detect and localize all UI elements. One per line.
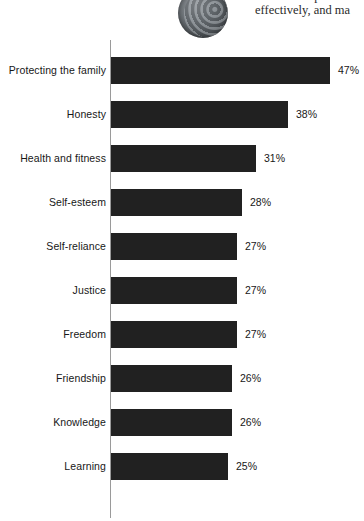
bar-row: Honesty38%: [0, 101, 355, 128]
bar-value-label: 27%: [245, 321, 266, 348]
bar-value-label: 26%: [240, 409, 261, 436]
bar-category-label: Freedom: [63, 321, 106, 348]
bar-value-label: 26%: [240, 365, 261, 392]
globe-photo-icon: [178, 0, 228, 38]
bar: [111, 453, 228, 480]
bar-row: Health and fitness31%: [0, 145, 355, 172]
bar-row: Friendship26%: [0, 365, 355, 392]
bar-row: Knowledge26%: [0, 409, 355, 436]
bar: [111, 277, 237, 304]
bar: [111, 189, 242, 216]
page-header-decoration: do. This helps adve effectively, and ma: [0, 0, 355, 40]
bar-value-label: 25%: [236, 453, 257, 480]
bar: [111, 145, 256, 172]
bar-category-label: Friendship: [56, 365, 106, 392]
bar-value-label: 28%: [250, 189, 271, 216]
bar-category-label: Health and fitness: [20, 145, 106, 172]
bar-category-label: Justice: [73, 277, 106, 304]
bar-row: Self-reliance27%: [0, 233, 355, 260]
bar-value-label: 47%: [338, 57, 359, 84]
bar-row: Freedom27%: [0, 321, 355, 348]
bar: [111, 233, 237, 260]
bar: [111, 365, 232, 392]
bar: [111, 101, 288, 128]
bar-category-label: Protecting the family: [9, 57, 106, 84]
bar-row: Self-esteem28%: [0, 189, 355, 216]
bar-row: Justice27%: [0, 277, 355, 304]
article-text-line-2: effectively, and ma: [255, 3, 364, 17]
bar-row: Protecting the family47%: [0, 57, 355, 84]
bar: [111, 321, 237, 348]
bar-category-label: Self-esteem: [49, 189, 106, 216]
globe-photo-texture: [184, 0, 228, 37]
bar-category-label: Self-reliance: [46, 233, 106, 260]
bar-row: Learning25%: [0, 453, 355, 480]
article-body-text-fragment: do. This helps adve effectively, and ma: [255, 0, 364, 17]
bar: [111, 57, 330, 84]
bar: [111, 409, 232, 436]
bar-category-label: Knowledge: [53, 409, 106, 436]
bar-value-label: 31%: [264, 145, 285, 172]
bar-value-label: 38%: [296, 101, 317, 128]
horizontal-bar-chart: Protecting the family47%Honesty38%Health…: [0, 40, 355, 521]
bar-value-label: 27%: [245, 277, 266, 304]
bar-category-label: Learning: [64, 453, 106, 480]
bar-category-label: Honesty: [67, 101, 106, 128]
bar-value-label: 27%: [245, 233, 266, 260]
